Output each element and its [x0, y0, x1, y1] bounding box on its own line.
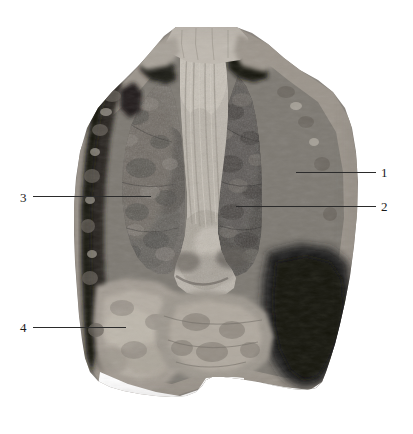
label-number-3[interactable]: 3 [20, 191, 27, 204]
specimen-photograph [0, 0, 413, 434]
label-number-1[interactable]: 1 [381, 166, 388, 179]
leader-line-3[interactable] [33, 196, 151, 197]
leader-line-2[interactable] [236, 206, 376, 207]
label-number-4[interactable]: 4 [20, 321, 27, 334]
label-number-2[interactable]: 2 [381, 200, 388, 213]
figure-root: 1 2 3 4 [0, 0, 413, 434]
leader-line-4[interactable] [33, 327, 126, 328]
specimen-svg [0, 0, 413, 434]
leader-line-1[interactable] [296, 172, 376, 173]
